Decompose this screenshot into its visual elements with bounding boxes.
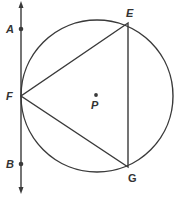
point-b-dot bbox=[19, 162, 24, 167]
label-f: F bbox=[6, 90, 13, 102]
arrow-up-icon bbox=[19, 1, 24, 8]
arrow-down-icon bbox=[19, 187, 24, 194]
geometry-diagram: A B F E G P bbox=[0, 0, 182, 197]
label-e: E bbox=[126, 7, 134, 19]
label-p: P bbox=[91, 99, 99, 111]
point-p-dot bbox=[94, 93, 98, 97]
triangle-efg bbox=[21, 23, 128, 167]
point-a-dot bbox=[19, 27, 24, 32]
label-g: G bbox=[128, 172, 137, 184]
label-b: B bbox=[6, 158, 14, 170]
label-a: A bbox=[5, 23, 14, 35]
